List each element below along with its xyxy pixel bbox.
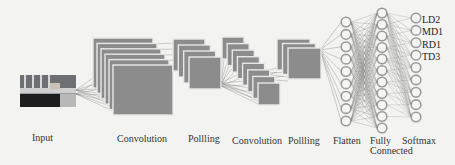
input-image: [20, 75, 76, 107]
neuron-node: [411, 26, 421, 36]
connection-line: [387, 48, 411, 105]
neuron-node: [341, 54, 351, 64]
connection-line: [320, 22, 341, 50]
stage-label-conv2: Convolution: [232, 135, 282, 146]
neuron-node: [377, 20, 387, 30]
neuron-node: [377, 31, 387, 41]
feature-map: [288, 48, 321, 79]
conv1-feature-maps: [93, 38, 173, 115]
connection-line: [320, 34, 341, 50]
stage-label-fc-line2: Connected: [370, 145, 413, 156]
connection-line: [320, 50, 341, 109]
neuron-node: [411, 63, 421, 73]
connection-line: [221, 62, 227, 83]
input-image-bar: [40, 75, 42, 88]
conv2-feature-maps: [222, 37, 280, 105]
connection-line: [387, 94, 411, 105]
input-image-bar: [24, 75, 26, 88]
neuron-node: [341, 104, 351, 114]
connection-line: [387, 36, 411, 68]
neuron-node: [377, 123, 387, 133]
stage-label-softmax: Softmax: [402, 135, 436, 146]
pool2-feature-maps: [277, 39, 321, 79]
neuron-node: [377, 43, 387, 53]
neuron-node: [411, 75, 421, 85]
neuron-node: [411, 87, 421, 97]
connection-line: [387, 36, 411, 43]
connection-line: [387, 25, 411, 31]
neuron-node: [341, 17, 351, 27]
connection-line: [387, 59, 411, 68]
stage-label-conv1: Convolution: [117, 133, 167, 144]
neuron-node: [411, 100, 421, 110]
connection-line: [351, 121, 377, 128]
stage-label-pool2: Pollling: [288, 135, 320, 146]
neuron-node: [377, 66, 387, 76]
connection-line: [387, 59, 411, 117]
input-image-hand: [50, 83, 60, 89]
neuron-node: [341, 67, 351, 77]
feature-map: [258, 83, 280, 105]
connection-line: [387, 71, 411, 118]
neuron-node: [377, 8, 387, 18]
connection-line: [76, 78, 93, 90]
input-image-right: [60, 94, 76, 107]
connection-line: [387, 117, 411, 118]
connection-line: [320, 50, 341, 59]
input-image-bar: [32, 75, 34, 88]
input-image-bar: [48, 75, 50, 88]
input-image-ledge: [20, 88, 76, 93]
neuron-node: [341, 116, 351, 126]
connection-line: [387, 71, 411, 93]
connection-line: [387, 13, 411, 92]
stage-label-flatten: Flatten: [333, 135, 361, 146]
connection-line: [320, 47, 341, 50]
flatten-neurons: [341, 17, 351, 126]
neuron-node: [411, 13, 421, 23]
neuron-node: [341, 42, 351, 52]
neuron-node: [377, 100, 387, 110]
stage-label-pool1: Pollling: [188, 133, 220, 144]
feature-map: [113, 65, 173, 115]
neuron-node: [411, 112, 421, 122]
neuron-node: [377, 112, 387, 122]
connection-line: [320, 50, 341, 96]
stage-label-input: Input: [32, 132, 53, 143]
neuron-node: [411, 50, 421, 60]
softmax-neurons: [411, 13, 421, 122]
neuron-node: [377, 77, 387, 87]
connection-line: [387, 13, 411, 55]
class-label: RD1: [422, 39, 441, 50]
input-image-dark: [20, 94, 60, 107]
connection-line: [351, 13, 377, 22]
neuron-node: [341, 79, 351, 89]
class-label: TD3: [422, 51, 440, 62]
feature-map: [189, 57, 221, 89]
connection-line: [221, 86, 250, 92]
fc-neurons: [377, 8, 387, 133]
neuron-node: [341, 30, 351, 40]
class-label: MD1: [422, 26, 443, 37]
connection-line: [221, 85, 245, 86]
neuron-node: [411, 38, 421, 48]
neuron-node: [377, 54, 387, 64]
neuron-node: [341, 91, 351, 101]
neuron-node: [377, 89, 387, 99]
pool1-feature-maps: [173, 39, 221, 89]
class-label: LD2: [422, 14, 440, 25]
